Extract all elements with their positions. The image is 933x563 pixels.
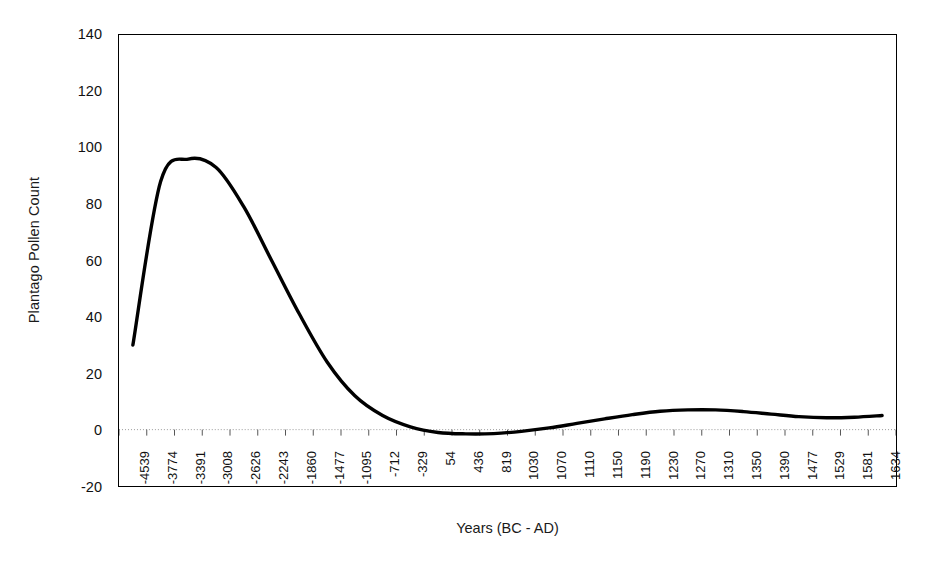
x-tick-label: -4539 xyxy=(137,449,152,482)
y-axis-tick-labels: 140120100806040200-20 xyxy=(58,34,110,487)
plot-svg xyxy=(119,35,896,486)
x-tick-label-text: -1477 xyxy=(332,451,347,484)
x-tick-label-text: 1350 xyxy=(749,451,764,480)
x-tick-label-text: 1529 xyxy=(832,451,847,480)
x-tick-label: 1150 xyxy=(610,449,625,477)
y-tick-label: 120 xyxy=(78,83,102,99)
x-tick-label-text: -3008 xyxy=(220,451,235,484)
x-tick-label-text: 1230 xyxy=(666,451,681,480)
x-tick-label-text: 819 xyxy=(499,451,514,473)
x-tick-label-text: -2243 xyxy=(276,451,291,484)
plot-area xyxy=(118,34,897,487)
x-tick-label-text: 1030 xyxy=(526,451,541,480)
x-tick-label-text: -1860 xyxy=(304,451,319,484)
y-tick-label: 140 xyxy=(78,26,102,42)
x-tick-label-text: 1634 xyxy=(888,451,903,480)
x-tick-label: 1110 xyxy=(582,449,597,476)
x-tick-label: -712 xyxy=(387,449,402,475)
x-tick-label: 819 xyxy=(499,449,514,471)
x-tick-label-text: 1477 xyxy=(805,451,820,480)
x-tick-label: 1634 xyxy=(888,449,903,478)
x-tick-label: 1310 xyxy=(721,449,736,478)
x-tick-label-text: -3391 xyxy=(193,451,208,484)
x-tick-label: 1190 xyxy=(638,449,653,477)
x-tick-label: 1030 xyxy=(526,449,541,478)
x-tick-label-text: 1070 xyxy=(554,451,569,480)
x-tick-label: -1860 xyxy=(304,449,319,482)
x-tick-label: 1581 xyxy=(860,449,875,478)
y-axis-title: Plantago Pollen Count xyxy=(14,0,54,500)
x-tick-label-text: -2626 xyxy=(248,451,263,484)
x-tick-label: -3391 xyxy=(193,449,208,482)
x-tick-label: 1477 xyxy=(805,449,820,478)
x-tick-label-text: -3774 xyxy=(165,451,180,484)
x-tick-label: 1529 xyxy=(832,449,847,478)
x-tick-label-text: -329 xyxy=(415,451,430,477)
x-axis-tick-labels: -4539-3774-3391-3008-2626-2243-1860-1477… xyxy=(118,449,897,489)
pollen-count-line-chart: Plantago Pollen Count 140120100806040200… xyxy=(0,0,933,563)
x-tick-label-text: -712 xyxy=(387,451,402,477)
x-tick-label: 1270 xyxy=(693,449,708,478)
x-tick-label-text: -1095 xyxy=(359,451,374,484)
x-tick-label-text: 1190 xyxy=(638,451,653,479)
x-tick-label: 1390 xyxy=(777,449,792,478)
x-tick-label: 436 xyxy=(471,449,486,471)
x-tick-label-text: 1270 xyxy=(693,451,708,480)
y-tick-label: 60 xyxy=(86,253,102,269)
x-tick-label-text: 1110 xyxy=(582,451,597,478)
x-tick-label: 1350 xyxy=(749,449,764,478)
x-tick-label: 1070 xyxy=(554,449,569,478)
y-tick-label: -20 xyxy=(81,479,102,495)
x-tick-label: -3008 xyxy=(220,449,235,482)
x-tick-label: -1095 xyxy=(359,449,374,482)
x-tick-label: -2626 xyxy=(248,449,263,482)
x-tick-label-text: 1581 xyxy=(860,451,875,480)
x-tick-label: -329 xyxy=(415,449,430,475)
y-axis-title-label: Plantago Pollen Count xyxy=(26,177,42,323)
x-tick-label: -2243 xyxy=(276,449,291,482)
x-tick-label: 1230 xyxy=(666,449,681,478)
y-tick-label: 40 xyxy=(86,309,102,325)
x-tick-label: 54 xyxy=(443,449,458,463)
x-axis-title-label: Years (BC - AD) xyxy=(456,520,559,536)
x-tick-label: -1477 xyxy=(332,449,347,482)
y-tick-label: 100 xyxy=(78,139,102,155)
x-tick-label-text: 436 xyxy=(471,451,486,473)
y-tick-label: 20 xyxy=(86,366,102,382)
y-tick-label: 80 xyxy=(86,196,102,212)
x-tick-label-text: 1390 xyxy=(777,451,792,480)
x-tick-label-text: 1310 xyxy=(721,451,736,480)
x-axis-title: Years (BC - AD) xyxy=(118,520,897,536)
x-tick-label: -3774 xyxy=(165,449,180,482)
x-tick-label-text: 54 xyxy=(443,451,458,465)
y-tick-label: 0 xyxy=(94,422,102,438)
x-tick-label-text: -4539 xyxy=(137,451,152,484)
x-tick-label-text: 1150 xyxy=(610,451,625,479)
series-line-0 xyxy=(133,158,882,434)
